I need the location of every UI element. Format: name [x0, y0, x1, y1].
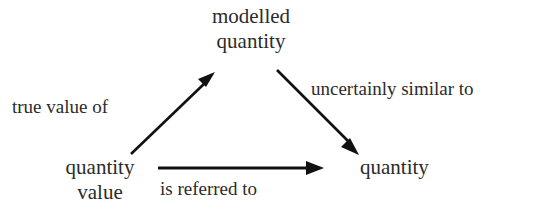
node-modelled-quantity-line1: modelled [178, 4, 324, 29]
edge-label-uncertainly-similar-to: uncertainly similar to [311, 78, 543, 100]
node-quantity: quantity [360, 155, 490, 180]
node-quantity-value-line2: value [40, 180, 160, 205]
node-quantity-line1: quantity [360, 155, 490, 180]
node-modelled-quantity: modelled quantity [178, 4, 324, 54]
edge-is-referred-to-arrowhead [306, 161, 324, 175]
node-quantity-value: quantity value [40, 155, 160, 205]
edge-label-true-value-of: true value of [12, 96, 152, 118]
edge-is-referred-to [158, 161, 324, 175]
diagram-canvas: modelled quantity quantity value quantit… [0, 0, 547, 216]
edge-uncertainly-similar-to-arrowhead [341, 138, 359, 155]
node-modelled-quantity-line2: quantity [178, 29, 324, 54]
node-quantity-value-line1: quantity [40, 155, 160, 180]
edge-label-is-referred-to: is referred to [160, 178, 320, 200]
edge-true-value-of-arrowhead [198, 72, 215, 87]
